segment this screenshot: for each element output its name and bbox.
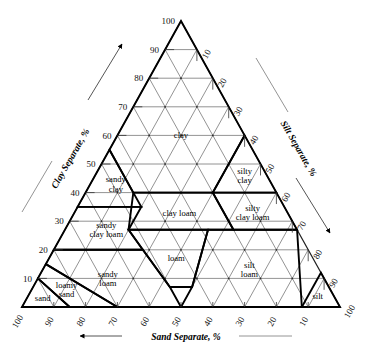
left-axis-direction-arrow bbox=[88, 44, 122, 100]
bottom-axis-tick-10: 10 bbox=[297, 315, 310, 328]
bottom-axis-tick-30: 30 bbox=[233, 315, 246, 328]
right-axis-title: Silt Separate, % bbox=[279, 119, 319, 178]
bottom-axis-tick-100: 100 bbox=[10, 313, 26, 330]
left-axis-tick-60: 60 bbox=[102, 131, 112, 141]
class-label-silt-loam: loam bbox=[241, 269, 258, 279]
bottom-axis-tick-90: 90 bbox=[43, 315, 56, 328]
right-axis-tick-100: 100 bbox=[342, 303, 358, 320]
bottom-axis-tick-60: 60 bbox=[138, 315, 151, 328]
class-label-silt: silt bbox=[312, 291, 323, 301]
class-label-sandy-clay: clay bbox=[109, 184, 124, 194]
class-label-silty-clay: clay bbox=[237, 175, 252, 185]
left-axis-tick-20: 20 bbox=[39, 245, 49, 255]
left-axis-tick-40: 40 bbox=[71, 188, 81, 198]
left-axis-tick-50: 50 bbox=[87, 159, 97, 169]
left-axis-rule bbox=[22, 161, 52, 212]
bottom-axis-tick-70: 70 bbox=[106, 315, 119, 328]
bottom-axis-tick-20: 20 bbox=[265, 315, 278, 328]
bottom-axis-title: Sand Separate, % bbox=[151, 332, 220, 342]
left-axis-tick-90: 90 bbox=[150, 45, 160, 55]
ternary-diagram-svg: claysiltyclaysandyclayclay loamsiltyclay… bbox=[0, 0, 372, 345]
texture-class-region-silt-loam[interactable] bbox=[181, 230, 302, 307]
texture-class-labels: claysiltyclaysandyclayclay loamsiltyclay… bbox=[35, 130, 324, 303]
left-axis-tick-100: 100 bbox=[162, 16, 176, 26]
class-label-loamy-sand: sand bbox=[59, 289, 75, 299]
bottom-axis-tick-40: 40 bbox=[202, 315, 215, 328]
left-axis-tick-30: 30 bbox=[55, 216, 65, 226]
class-label-sandy-clay-loam: clay loam bbox=[89, 229, 123, 239]
left-axis-tick-80: 80 bbox=[134, 73, 144, 83]
bottom-axis-tick-80: 80 bbox=[74, 315, 87, 328]
grid-lines bbox=[38, 50, 324, 307]
class-label-clay-loam: clay loam bbox=[163, 208, 197, 218]
class-label-sandy-loam: loam bbox=[99, 278, 116, 288]
left-axis-tick-70: 70 bbox=[118, 102, 128, 112]
class-label-sand: sand bbox=[35, 293, 51, 303]
left-axis-title: Clay Separate, % bbox=[49, 127, 91, 190]
bottom-axis-tick-50: 50 bbox=[170, 315, 183, 328]
left-axis-tick-10: 10 bbox=[23, 274, 33, 284]
soil-texture-triangle-figure: claysiltyclaysandyclayclay loamsiltyclay… bbox=[0, 0, 372, 345]
right-axis-rule bbox=[256, 58, 288, 112]
class-label-clay: clay bbox=[174, 130, 189, 140]
class-label-silty-clay-loam: clay loam bbox=[236, 212, 270, 222]
class-label-loam: loam bbox=[168, 253, 185, 263]
